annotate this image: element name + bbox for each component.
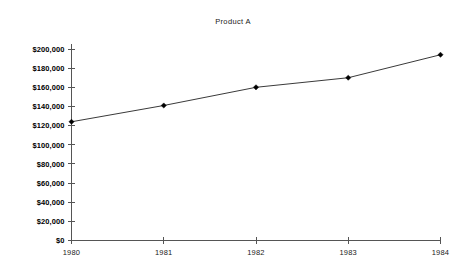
y-tick-label: $40,000	[37, 198, 65, 207]
chart-title: Product A	[215, 17, 251, 26]
x-tick-label: 1982	[247, 248, 265, 257]
y-tick-label: $100,000	[32, 141, 64, 150]
y-tick-label: $80,000	[37, 160, 65, 169]
chart-background	[0, 0, 468, 278]
line-chart: Product A $0$20,000$40,000$60,000$80,000…	[0, 0, 468, 278]
y-tick-label: $160,000	[32, 83, 64, 92]
y-tick-label: $60,000	[37, 179, 65, 188]
y-tick-label: $120,000	[32, 121, 64, 130]
y-tick-label: $180,000	[32, 64, 64, 73]
y-tick-label: $20,000	[37, 217, 65, 226]
y-tick-label: $140,000	[32, 102, 64, 111]
x-tick-label: 1984	[432, 248, 450, 257]
y-tick-label: $200,000	[32, 45, 64, 54]
chart-container: Product A $0$20,000$40,000$60,000$80,000…	[0, 0, 468, 278]
y-tick-label: $0	[56, 236, 65, 245]
x-tick-label: 1981	[155, 248, 173, 257]
x-tick-label: 1980	[63, 248, 81, 257]
x-tick-label: 1983	[340, 248, 358, 257]
